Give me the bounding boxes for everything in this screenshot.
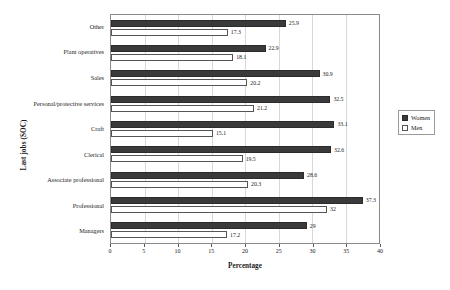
bar-men[interactable] xyxy=(111,206,327,213)
bar-value-label: 19.5 xyxy=(246,156,256,162)
x-axis-ticks: 0510152025303540 xyxy=(110,244,380,258)
bar-line: 18.1 xyxy=(111,54,379,61)
category-label: Managers xyxy=(22,219,107,245)
x-axis-title: Percentage xyxy=(110,262,380,270)
bar-women[interactable] xyxy=(111,96,330,103)
bar-women[interactable] xyxy=(111,70,320,77)
x-tick-mark xyxy=(178,244,179,247)
bar-women[interactable] xyxy=(111,197,363,204)
x-tick-label: 40 xyxy=(377,248,383,254)
bar-value-label: 37.3 xyxy=(366,197,376,203)
bar-women[interactable] xyxy=(111,45,266,52)
bar-group: 22.918.1 xyxy=(111,40,379,65)
category-label: Personal/protective services xyxy=(22,91,107,117)
legend-item-men[interactable]: Men xyxy=(402,124,430,131)
bar-line: 33.1 xyxy=(111,121,379,128)
bar-line: 15.1 xyxy=(111,130,379,137)
bar-value-label: 21.2 xyxy=(257,105,267,111)
category-label: Craft xyxy=(22,116,107,142)
bar-line: 32.6 xyxy=(111,146,379,153)
legend-swatch-icon xyxy=(402,115,408,121)
category-label: Clerical xyxy=(22,142,107,168)
bar-line: 19.5 xyxy=(111,155,379,162)
bar-line: 20.2 xyxy=(111,79,379,86)
category-label: Plant operatives xyxy=(22,40,107,66)
bar-group: 37.332 xyxy=(111,192,379,217)
bar-value-label: 22.9 xyxy=(269,45,279,51)
x-tick-label: 15 xyxy=(208,248,214,254)
x-tick-label: 0 xyxy=(109,248,112,254)
x-tick-mark xyxy=(313,244,314,247)
bar-value-label: 30.9 xyxy=(323,71,333,77)
x-tick-label: 20 xyxy=(242,248,248,254)
plot-area: 25.917.322.918.130.920.232.521.233.115.1… xyxy=(110,14,380,244)
bar-value-label: 20.3 xyxy=(251,181,261,187)
bar-men[interactable] xyxy=(111,29,228,36)
bar-group: 25.917.3 xyxy=(111,15,379,40)
bar-women[interactable] xyxy=(111,146,331,153)
bar-line: 22.9 xyxy=(111,45,379,52)
bar-value-label: 17.3 xyxy=(231,29,241,35)
bar-value-label: 32 xyxy=(330,206,336,212)
category-label: Other xyxy=(22,14,107,40)
legend-swatch-icon xyxy=(402,125,408,131)
x-tick-label: 25 xyxy=(276,248,282,254)
x-tick-mark xyxy=(110,244,111,247)
bar-men[interactable] xyxy=(111,231,227,238)
bar-women[interactable] xyxy=(111,172,304,179)
bar-men[interactable] xyxy=(111,181,248,188)
bar-line: 37.3 xyxy=(111,197,379,204)
bar-line: 29 xyxy=(111,222,379,229)
bar-men[interactable] xyxy=(111,79,247,86)
bar-group: 28.620.3 xyxy=(111,167,379,192)
bar-value-label: 18.1 xyxy=(236,54,246,60)
x-tick-mark xyxy=(144,244,145,247)
legend-item-women[interactable]: Women xyxy=(402,114,430,121)
x-tick-mark xyxy=(279,244,280,247)
bar-women[interactable] xyxy=(111,121,334,128)
bar-men[interactable] xyxy=(111,155,243,162)
x-tick-label: 30 xyxy=(310,248,316,254)
bar-line: 32 xyxy=(111,206,379,213)
bar-group: 33.115.1 xyxy=(111,116,379,141)
x-tick-label: 5 xyxy=(142,248,145,254)
bar-value-label: 17.2 xyxy=(230,232,240,238)
bar-men[interactable] xyxy=(111,105,254,112)
x-tick-label: 10 xyxy=(175,248,181,254)
bar-line: 17.2 xyxy=(111,231,379,238)
legend-label: Men xyxy=(411,124,422,131)
legend-label: Women xyxy=(411,114,430,121)
bar-line: 20.3 xyxy=(111,181,379,188)
x-tick-mark xyxy=(380,244,381,247)
bar-value-label: 20.2 xyxy=(250,80,260,86)
bar-line: 17.3 xyxy=(111,29,379,36)
bar-chart: Last jobs (SOC) OtherPlant operativesSal… xyxy=(0,0,450,290)
x-tick-label: 35 xyxy=(343,248,349,254)
category-label: Professional xyxy=(22,193,107,219)
bar-value-label: 29 xyxy=(310,223,316,229)
bar-line: 28.6 xyxy=(111,172,379,179)
x-tick-mark xyxy=(245,244,246,247)
bar-women[interactable] xyxy=(111,222,307,229)
bar-group: 2917.2 xyxy=(111,218,379,243)
bar-group: 30.920.2 xyxy=(111,66,379,91)
bar-group: 32.521.2 xyxy=(111,91,379,116)
bar-line: 25.9 xyxy=(111,20,379,27)
y-axis-category-labels: OtherPlant operativesSalesPersonal/prote… xyxy=(22,14,107,244)
bar-value-label: 32.5 xyxy=(333,96,343,102)
bar-men[interactable] xyxy=(111,130,213,137)
bar-line: 30.9 xyxy=(111,70,379,77)
category-label: Sales xyxy=(22,65,107,91)
bar-men[interactable] xyxy=(111,54,233,61)
bar-line: 32.5 xyxy=(111,96,379,103)
bar-group: 32.619.5 xyxy=(111,142,379,167)
category-label: Associate professional xyxy=(22,167,107,193)
bar-line: 21.2 xyxy=(111,105,379,112)
x-tick-mark xyxy=(346,244,347,247)
legend: WomenMen xyxy=(398,110,435,135)
bar-value-label: 15.1 xyxy=(216,130,226,136)
bar-value-label: 28.6 xyxy=(307,172,317,178)
bar-rows: 25.917.322.918.130.920.232.521.233.115.1… xyxy=(111,15,379,243)
bar-value-label: 25.9 xyxy=(289,20,299,26)
bar-women[interactable] xyxy=(111,20,286,27)
